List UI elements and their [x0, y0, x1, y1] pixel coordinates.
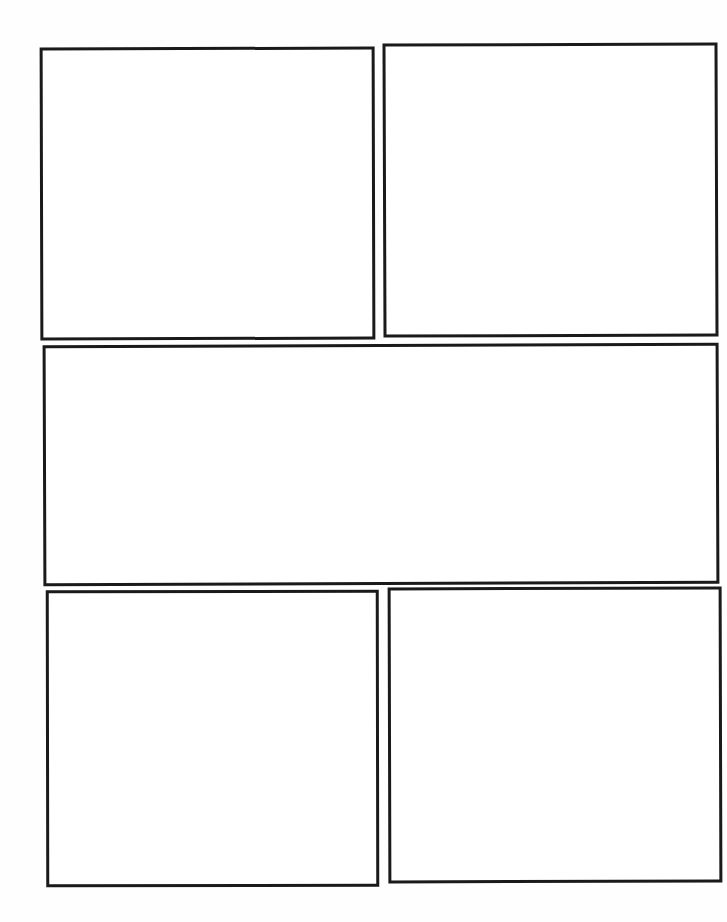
panel-bottom-left	[46, 590, 380, 888]
panel-top-left	[40, 47, 376, 341]
panel-middle-wide	[43, 343, 720, 586]
comic-page	[0, 0, 727, 922]
panel-top-right	[382, 42, 718, 337]
panel-bottom-right	[388, 587, 723, 884]
